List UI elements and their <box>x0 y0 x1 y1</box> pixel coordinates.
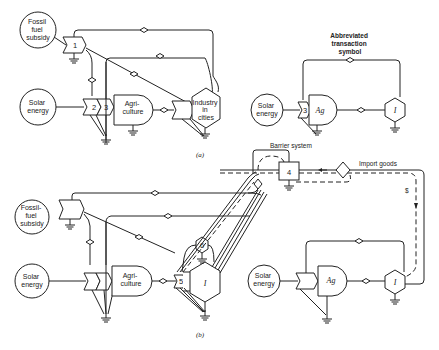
barrier-system-label: Barrier system <box>270 142 312 150</box>
solar-label-b: Solar energy <box>21 273 43 289</box>
svg-text:Ag: Ag <box>326 276 336 285</box>
interaction-fossil-b <box>59 200 84 219</box>
solar-label-a: Solar energy <box>27 99 49 115</box>
interaction-industry-a <box>172 101 194 119</box>
svg-text:I: I <box>203 279 207 288</box>
diagram-a: Fossil fuel subsidy 1 Solar energy 2 3 <box>20 12 220 159</box>
energy-flow-diagram: Fossil fuel subsidy 1 Solar energy 2 3 <box>0 0 439 350</box>
svg-text:4: 4 <box>287 168 291 177</box>
svg-text:3: 3 <box>303 106 307 115</box>
svg-text:(b): (b) <box>196 331 205 339</box>
svg-text:I: I <box>393 278 397 287</box>
svg-text:2: 2 <box>92 103 96 112</box>
diagram-b: Fossil- fuel subsidy Solar energy Agri- <box>15 142 424 339</box>
agriculture-label-a: Agri- culture <box>122 100 143 115</box>
svg-text:5: 5 <box>179 277 183 286</box>
abbreviated-diagram: Abbreviated transaction symbol Solar ene… <box>251 32 405 135</box>
import-goods-label: Import goods <box>359 160 398 168</box>
solar-label-abbr: Solar energy <box>256 102 278 118</box>
svg-text:1: 1 <box>73 41 77 50</box>
interaction-b2 <box>296 273 318 289</box>
svg-text:(a): (a) <box>196 151 205 159</box>
solar-label-b2: Solar energy <box>253 272 275 288</box>
money-transaction-b <box>254 179 262 189</box>
abbreviated-title: Abbreviated transaction symbol <box>330 32 369 56</box>
svg-text:I: I <box>393 106 397 115</box>
import-goods-diamond <box>336 162 350 178</box>
agriculture-label-b: Agri- culture <box>120 272 141 287</box>
svg-text:Ag: Ag <box>315 106 325 115</box>
money-label: $ <box>405 187 409 194</box>
